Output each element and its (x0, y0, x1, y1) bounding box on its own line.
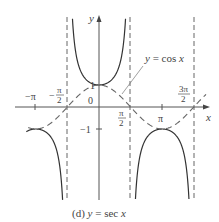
x-tick-three-pi-half-label: 3π 2 (178, 84, 190, 104)
x-tick-neg-pi-label: −π (25, 91, 36, 102)
svg-text:3π: 3π (179, 84, 189, 94)
y-tick-neg1-label: −1 (80, 124, 91, 135)
asymptotes (67, 17, 194, 200)
y-axis-label: y (88, 12, 94, 24)
sec-branch-right (135, 129, 188, 199)
curves (26, 19, 206, 200)
x-axis-arrow-icon (203, 105, 210, 110)
x-axis-label: x (205, 111, 211, 123)
svg-text:2: 2 (181, 94, 186, 104)
svg-text:2: 2 (57, 95, 62, 105)
svg-text:π: π (119, 108, 124, 118)
svg-text:2: 2 (119, 118, 124, 128)
cos-annotation: y = cos x (122, 52, 184, 94)
svg-text:−: − (49, 90, 55, 101)
x-tick-neg-pi-half-label: − π 2 (49, 85, 64, 105)
sec-branch-left (26, 129, 62, 200)
svg-text:y = cos x: y = cos x (144, 52, 184, 64)
y-tick-1-label: 1 (90, 80, 95, 91)
annotation-leader-line (122, 66, 143, 94)
y-axis-arrow-icon (97, 15, 102, 22)
x-tick-pi-label: π (158, 113, 163, 124)
axes (15, 20, 206, 200)
figure-caption: (d) y = sec x (72, 207, 126, 220)
sec-graph-figure: y x 0 1 −1 −π − π 2 π 2 π 3π 2 y = cos x… (0, 0, 219, 222)
x-tick-pi-half-label: π 2 (118, 108, 126, 128)
origin-label: 0 (88, 95, 93, 106)
svg-text:π: π (57, 85, 62, 95)
